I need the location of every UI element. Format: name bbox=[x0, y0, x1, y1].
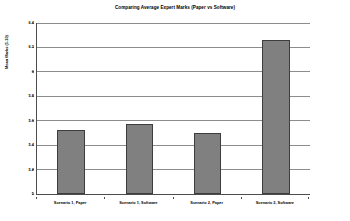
y-tick-mark bbox=[32, 71, 34, 72]
y-axis-tick-labels: 55.25.45.65.866.26.4 bbox=[0, 23, 34, 195]
bar bbox=[262, 40, 289, 194]
y-tick-mark bbox=[32, 169, 34, 170]
y-tick-mark bbox=[32, 47, 34, 48]
y-tick-mark bbox=[32, 23, 34, 24]
y-tick-mark bbox=[32, 145, 34, 146]
y-tick-label: 5.6 bbox=[4, 119, 34, 123]
bars-group bbox=[37, 23, 310, 194]
bar-chart: Comparing Average Expert Marks (Paper vs… bbox=[0, 0, 350, 221]
x-tick-mark bbox=[104, 197, 105, 199]
y-tick-label: 6.2 bbox=[4, 45, 34, 49]
y-tick-label: 6 bbox=[4, 70, 34, 74]
y-tick-label: 5.4 bbox=[4, 143, 34, 147]
x-tick-mark bbox=[173, 197, 174, 199]
x-tick-label: Scenario 1, Software bbox=[104, 200, 172, 205]
y-tick-label: 5.8 bbox=[4, 94, 34, 98]
x-tick-label: Scenario 2, Paper bbox=[173, 200, 241, 205]
chart-title: Comparing Average Expert Marks (Paper vs… bbox=[0, 4, 350, 11]
x-tick-mark bbox=[241, 197, 242, 199]
bar bbox=[126, 124, 153, 194]
y-tick-label: 5 bbox=[4, 192, 34, 196]
x-tick-mark bbox=[36, 197, 37, 199]
bar bbox=[194, 133, 221, 194]
bar bbox=[57, 130, 84, 194]
y-tick-label: 5.2 bbox=[4, 168, 34, 172]
x-tick-mark bbox=[308, 197, 309, 199]
x-tick-label: Scenario 1, Paper bbox=[36, 200, 104, 205]
x-axis-tick-labels: Scenario 1, PaperScenario 1, SoftwareSce… bbox=[36, 197, 310, 209]
x-tick-label: Scenario 2, Software bbox=[241, 200, 309, 205]
y-tick-label: 6.4 bbox=[4, 21, 34, 25]
y-tick-mark bbox=[32, 194, 34, 195]
y-tick-mark bbox=[32, 96, 34, 97]
y-tick-mark bbox=[32, 120, 34, 121]
plot-area bbox=[36, 23, 310, 195]
